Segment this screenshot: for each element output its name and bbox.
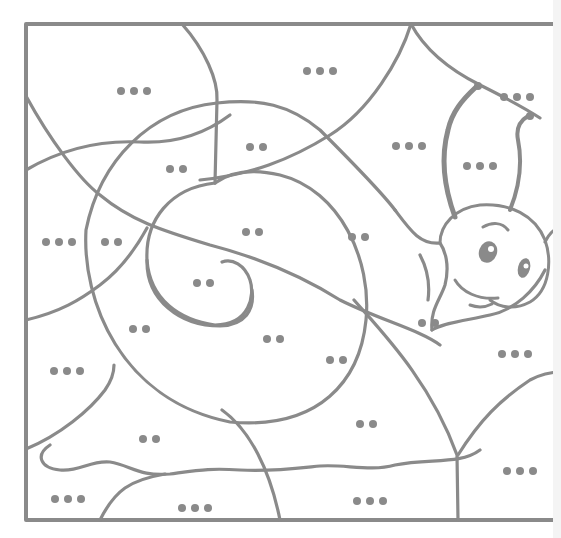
page-edge — [553, 0, 561, 538]
dot-icon — [129, 325, 137, 333]
dot-icon — [263, 335, 271, 343]
dot-icon — [500, 93, 508, 101]
shell-top-curve — [217, 101, 395, 210]
region-dot-marker-3[interactable] — [500, 93, 534, 101]
bottom-arc — [100, 474, 165, 520]
region-dot-marker-2[interactable] — [356, 420, 377, 428]
region-dot-marker-3[interactable] — [178, 504, 212, 512]
dot-icon — [329, 67, 337, 75]
dot-icon — [526, 93, 534, 101]
region-dot-marker-3[interactable] — [463, 162, 497, 170]
snail-neck — [395, 210, 447, 330]
dot-icon — [142, 325, 150, 333]
dot-icon — [139, 435, 147, 443]
mouth-line — [470, 304, 492, 307]
dot-icon — [51, 495, 59, 503]
dot-icon — [463, 162, 471, 170]
region-dot-marker-2[interactable] — [246, 143, 267, 151]
region-dot-marker-2[interactable] — [166, 165, 187, 173]
region-dot-marker-2[interactable] — [348, 233, 369, 241]
dot-icon — [316, 67, 324, 75]
region-dot-marker-3[interactable] — [117, 87, 151, 95]
body-right-curve — [354, 300, 458, 520]
shell-base-arc — [222, 410, 280, 520]
region-dot-marker-2[interactable] — [326, 356, 347, 364]
region-dot-marker-2[interactable] — [129, 325, 150, 333]
dot-icon — [179, 165, 187, 173]
dot-icon — [166, 165, 174, 173]
dot-icon — [193, 279, 201, 287]
dot-icon — [498, 350, 506, 358]
region-dot-marker-2[interactable] — [242, 228, 263, 236]
dot-icon — [68, 238, 76, 246]
dot-icon — [418, 319, 426, 327]
region-dot-marker-3[interactable] — [498, 350, 532, 358]
region-dot-marker-3[interactable] — [392, 142, 426, 150]
dot-icon — [418, 142, 426, 150]
dot-icon — [392, 142, 400, 150]
dot-icon — [529, 467, 537, 475]
dot-icon — [511, 350, 519, 358]
dot-icon — [117, 87, 125, 95]
dot-icon — [524, 350, 532, 358]
antenna-left-tip — [474, 82, 482, 90]
region-dot-marker-3[interactable] — [503, 467, 537, 475]
dot-icon — [191, 504, 199, 512]
dot-icon — [353, 497, 361, 505]
region-dot-marker-3[interactable] — [42, 238, 76, 246]
region-dot-marker-2[interactable] — [418, 319, 439, 327]
dot-icon — [143, 87, 151, 95]
dot-icon — [55, 238, 63, 246]
region-dot-marker-2[interactable] — [139, 435, 160, 443]
dot-icon — [369, 420, 377, 428]
dot-icon — [259, 143, 267, 151]
dot-icon — [114, 238, 122, 246]
dot-icon — [361, 233, 369, 241]
frame-border — [26, 24, 561, 520]
region-dot-marker-3[interactable] — [50, 367, 84, 375]
dot-icon — [152, 435, 160, 443]
region-dot-marker-3[interactable] — [51, 495, 85, 503]
dot-icon — [42, 238, 50, 246]
eye-right — [516, 257, 533, 279]
eye-left — [476, 239, 500, 266]
dot-icon — [101, 238, 109, 246]
region-dot-marker-2[interactable] — [193, 279, 214, 287]
dot-icon — [489, 162, 497, 170]
dot-icon — [303, 67, 311, 75]
dot-icon — [513, 93, 521, 101]
dot-icon — [348, 233, 356, 241]
dot-icon — [431, 319, 439, 327]
region-dot-marker-2[interactable] — [263, 335, 284, 343]
right-bottom-curve — [458, 372, 561, 455]
region-dot-marker-2[interactable] — [101, 238, 122, 246]
region-dot-marker-3[interactable] — [353, 497, 387, 505]
eyebrow — [483, 224, 508, 230]
dot-icon — [246, 143, 254, 151]
dot-icon — [255, 228, 263, 236]
coloring-page-canvas — [0, 0, 561, 538]
snail-neck-inner — [420, 255, 429, 300]
dot-icon — [206, 279, 214, 287]
dot-icon — [77, 495, 85, 503]
dot-icon — [476, 162, 484, 170]
dot-icon — [405, 142, 413, 150]
left-wave-middle — [26, 365, 114, 449]
dot-icon — [326, 356, 334, 364]
region-dot-marker-3[interactable] — [303, 67, 337, 75]
dot-icon — [339, 356, 347, 364]
shell-inner-loop — [147, 260, 253, 326]
antenna-right — [510, 116, 528, 210]
dot-icon — [50, 367, 58, 375]
top-right-arc-right — [411, 24, 540, 118]
dot-icon — [204, 504, 212, 512]
antenna-left — [444, 87, 476, 217]
dot-icon — [366, 497, 374, 505]
dot-icon — [276, 335, 284, 343]
smile — [455, 280, 498, 298]
dot-icon — [76, 367, 84, 375]
dot-icon — [130, 87, 138, 95]
antenna-right-tip — [526, 112, 534, 120]
dot-icon — [178, 504, 186, 512]
dot-icon — [63, 367, 71, 375]
